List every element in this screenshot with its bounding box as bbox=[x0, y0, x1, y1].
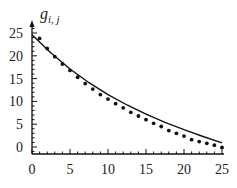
data-point bbox=[45, 47, 49, 51]
y-tick-label: 15 bbox=[9, 72, 23, 87]
y-label-sub: i, j bbox=[48, 13, 60, 25]
data-points bbox=[38, 37, 224, 150]
tick-marks bbox=[32, 28, 222, 154]
data-point bbox=[182, 134, 186, 138]
data-point bbox=[159, 125, 163, 129]
x-tick-label: 25 bbox=[215, 162, 229, 177]
y-tick-label: 10 bbox=[9, 94, 23, 109]
y-tick-label: 20 bbox=[9, 49, 23, 64]
y-label-main: g bbox=[40, 5, 48, 23]
data-point bbox=[114, 102, 118, 106]
data-point bbox=[152, 121, 156, 125]
data-point bbox=[144, 118, 148, 122]
data-point bbox=[167, 129, 171, 133]
data-point bbox=[83, 82, 87, 86]
data-point bbox=[106, 97, 110, 101]
y-axis-arrow-icon bbox=[30, 20, 35, 27]
data-point bbox=[53, 55, 57, 59]
data-point bbox=[190, 138, 194, 142]
data-point bbox=[121, 106, 125, 110]
data-point bbox=[129, 110, 133, 114]
data-point bbox=[68, 68, 72, 72]
data-point bbox=[197, 140, 201, 144]
fitted-curve-line bbox=[32, 35, 222, 143]
data-point bbox=[175, 131, 179, 135]
y-tick-label: 25 bbox=[9, 26, 23, 41]
chart: 05101520250510152025 gi, j bbox=[0, 0, 237, 188]
y-axis-label: gi, j bbox=[40, 5, 60, 25]
data-point bbox=[61, 62, 65, 66]
data-point bbox=[91, 87, 95, 91]
data-point bbox=[76, 75, 80, 79]
y-tick-label: 0 bbox=[16, 140, 23, 155]
x-tick-label: 10 bbox=[101, 162, 115, 177]
data-point bbox=[137, 114, 141, 118]
data-point bbox=[213, 143, 217, 147]
x-tick-label: 5 bbox=[67, 162, 74, 177]
x-tick-label: 15 bbox=[139, 162, 153, 177]
y-tick-label: 5 bbox=[16, 117, 23, 132]
x-tick-label: 0 bbox=[29, 162, 36, 177]
data-point bbox=[220, 146, 224, 150]
data-point bbox=[38, 37, 42, 41]
data-point bbox=[99, 93, 103, 97]
data-point bbox=[205, 141, 209, 145]
x-tick-label: 20 bbox=[177, 162, 191, 177]
